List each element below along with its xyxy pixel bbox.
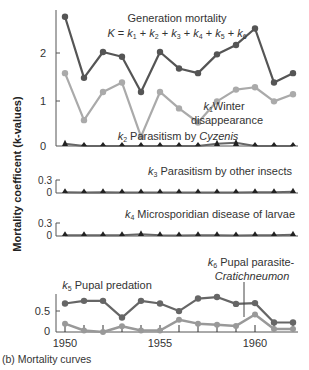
mortality-chart: 2 1 0 Generation mortality K = k1 + k2 +… [0,0,309,370]
data-point [119,54,125,60]
data-point [176,105,182,111]
k1-label-line2: disappearance [191,114,263,126]
data-point [176,308,182,314]
data-point [176,65,182,71]
data-marker [195,142,201,146]
data-marker [138,189,144,193]
data-marker [81,189,87,193]
data-marker [81,231,87,236]
data-point [100,329,106,335]
data-point [252,300,258,306]
data-point [233,42,239,48]
k-formula: K = k1 + k2 + k3 + k4 + k5 + k6 [107,27,246,40]
data-point [62,321,68,327]
data-marker [62,140,68,146]
data-point [157,327,163,333]
data-point [290,319,296,325]
data-point [119,79,125,85]
k-title: Generation mortality [127,12,227,24]
k6-label-line2: Cratichneumon [215,270,290,282]
k2-label: k2 Parasitism by Cyzenis [118,130,239,143]
data-marker [233,232,239,236]
data-point [100,49,106,55]
data-marker [176,232,182,236]
data-marker [119,231,125,236]
data-point [138,298,144,304]
k4-ytick-0: 0 [46,230,52,241]
xtick-1960: 1960 [243,337,267,349]
data-point [100,89,106,95]
k3-series [62,188,296,193]
data-marker [81,142,87,146]
data-point [138,89,144,95]
data-point [214,322,220,328]
k6-label: k6 Pupal parasite- [208,256,295,269]
k4-series [62,230,296,236]
k1-label: k1Winter [203,100,245,113]
data-point [119,323,125,329]
data-point [271,79,277,85]
top-ytick-0: 0 [40,140,46,152]
data-point [157,300,163,306]
top-ytick-1: 1 [40,95,46,107]
data-marker [176,189,182,193]
data-point [233,323,239,329]
data-marker [157,189,163,193]
data-marker [100,231,106,236]
k3-label: k3 Parasitism by other insects [148,165,292,178]
data-marker [214,189,220,193]
series-line [65,17,293,92]
data-marker [290,231,296,236]
data-marker [138,142,144,146]
data-point [119,314,125,320]
k4-ytick-0.3: 0.3 [38,218,52,229]
data-point [62,14,68,20]
data-point [271,326,277,332]
data-marker [157,231,163,236]
data-marker [252,231,258,236]
xtick-1955: 1955 [148,337,172,349]
data-point [233,86,239,92]
data-marker [100,142,106,146]
data-point [271,319,277,325]
data-point [252,25,258,31]
data-point [62,70,68,76]
data-marker [62,231,68,236]
data-point [214,294,220,300]
data-marker [100,188,106,193]
figure-caption: (b) Mortality curves [2,353,91,365]
k3-ytick-0.3: 0.3 [38,175,52,186]
data-point [195,70,201,76]
data-marker [62,188,68,193]
k3-panel-axis [56,180,298,193]
data-marker [252,142,258,146]
k4-label: k4 Microsporidian disease of larvae [125,208,295,221]
data-marker [233,189,239,193]
data-point [195,295,201,301]
data-marker [290,142,296,146]
data-marker [195,231,201,236]
series-line [65,73,293,136]
data-marker [271,142,277,146]
k5-label: k5 Pupal predation [62,279,152,292]
data-point [252,312,258,318]
data-marker [290,188,296,193]
data-marker [214,231,220,236]
data-point [214,51,220,57]
data-point [290,326,296,332]
data-point [62,300,68,306]
k4-panel-axis [56,223,298,236]
data-point [252,84,258,90]
bottom-ytick-0: 0 [44,325,50,337]
data-point [100,298,106,304]
data-point [290,70,296,76]
data-point [157,89,163,95]
data-marker [119,189,125,193]
bottom-ytick-0.5: 0.5 [35,305,50,317]
data-point [233,301,239,307]
data-point [81,75,87,81]
data-marker [157,142,163,146]
data-marker [195,189,201,193]
data-point [271,98,277,104]
top-ytick-2: 2 [40,47,46,59]
